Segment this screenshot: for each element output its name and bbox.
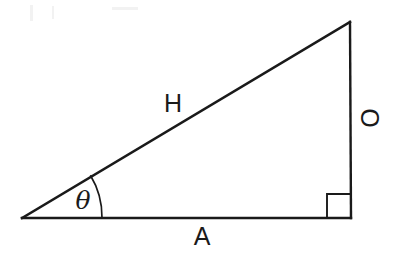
hypotenuse-label: H	[164, 91, 182, 116]
right-angle-marker	[327, 194, 351, 218]
triangle-drawing	[0, 0, 397, 256]
opposite-label: O	[358, 108, 383, 127]
trigonometry-figure: H A O θ	[0, 0, 397, 256]
theta-angle-label: θ	[75, 188, 90, 213]
opposite-side-line	[350, 22, 351, 218]
adjacent-label: A	[194, 224, 211, 249]
angle-arc	[90, 175, 102, 218]
hypotenuse-side-line	[22, 22, 350, 218]
